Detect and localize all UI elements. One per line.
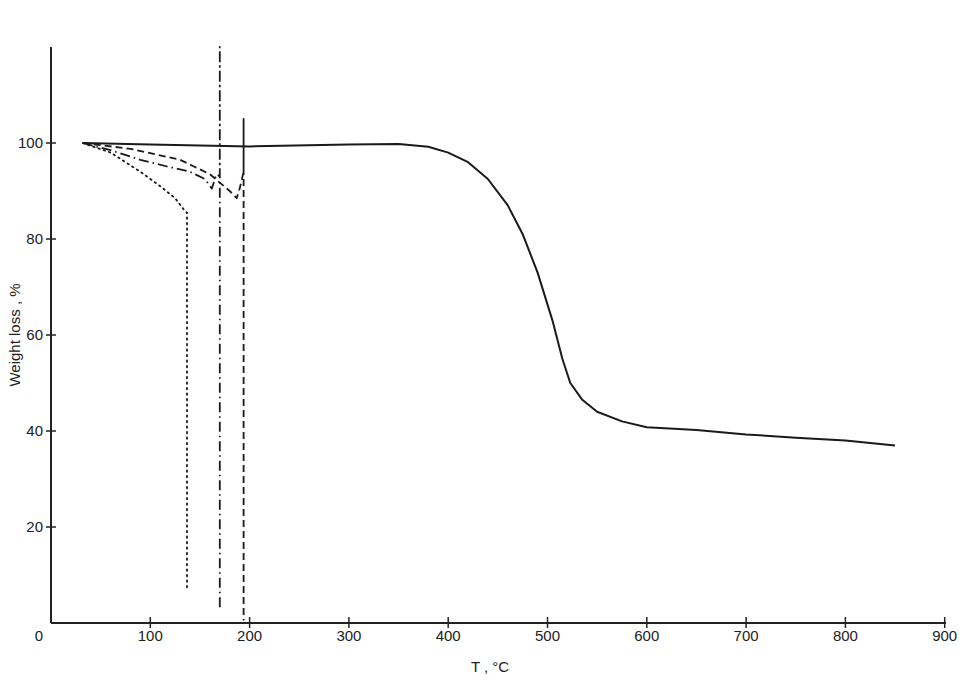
series-solid <box>83 143 895 445</box>
y-tick-label: 40 <box>26 422 43 439</box>
x-tick-label: 800 <box>833 627 858 644</box>
x-tick-label: 400 <box>436 627 461 644</box>
y-tick-label: 60 <box>26 326 43 343</box>
y-tick-label: 20 <box>26 518 43 535</box>
series-dotted <box>83 143 187 589</box>
axes <box>51 47 946 623</box>
x-tick-label: 900 <box>932 627 957 644</box>
tga-chart: 0100200300400500600700800900 20406080100… <box>0 0 963 683</box>
y-tick-label: 80 <box>26 230 43 247</box>
x-tick-label: 300 <box>336 627 361 644</box>
x-tick-label: 700 <box>734 627 759 644</box>
x-tick-label: 200 <box>237 627 262 644</box>
x-tick-label: 500 <box>535 627 560 644</box>
y-tick-label: 100 <box>18 134 43 151</box>
data-series <box>83 47 895 621</box>
x-tick-label: 600 <box>634 627 659 644</box>
x-tick-label: 100 <box>138 627 163 644</box>
series-dash-dot <box>83 47 220 609</box>
x-axis-title: T , °C <box>471 658 509 675</box>
x-ticks: 0100200300400500600700800900 <box>35 617 957 644</box>
y-axis-title: Weight loss , % <box>6 283 23 386</box>
x-tick-label: 0 <box>35 627 43 644</box>
